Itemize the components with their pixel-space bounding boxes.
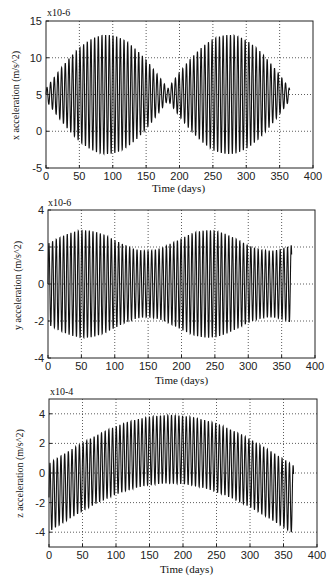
y-chart-ylabel: y acceleration (m/s^2) — [12, 221, 23, 351]
y-acceleration-line — [48, 230, 292, 337]
z-chart-ylabel: z acceleration (m/s^2) — [14, 409, 25, 539]
z-acceleration-chart: 050100150200250300350400-4-2024 — [35, 399, 326, 561]
y-tick-label: -5 — [32, 162, 42, 174]
x-tick-label: 150 — [139, 360, 157, 372]
x-tick-label: 300 — [237, 170, 255, 182]
x-tick-label: 200 — [172, 360, 190, 372]
figure-canvas: 050100150200250300350400-505101505010015… — [0, 0, 334, 585]
x-tick-label: 0 — [45, 360, 51, 372]
x-tick-label: 200 — [170, 170, 188, 182]
y-chart-xlabel: Time (days) — [155, 374, 208, 386]
y-tick-label: 2 — [39, 437, 45, 449]
x-tick-label: 0 — [43, 170, 49, 182]
x-acceleration-line — [46, 35, 290, 154]
y-tick-label: 0 — [38, 278, 44, 290]
y-tick-label: -4 — [35, 526, 45, 538]
y-tick-label: 10 — [30, 52, 42, 64]
y-tick-label: 2 — [38, 241, 44, 253]
y-tick-label: 4 — [38, 204, 44, 216]
z-chart-xlabel: Time (days) — [160, 563, 213, 575]
y-tick-label: 5 — [36, 89, 42, 101]
z-acceleration-line — [49, 415, 294, 532]
y-tick-label: -2 — [34, 315, 44, 327]
x-tick-label: 300 — [239, 360, 257, 372]
y-tick-label: 15 — [30, 15, 42, 27]
x-tick-label: 400 — [304, 170, 322, 182]
x-tick-label: 350 — [274, 549, 292, 561]
y-tick-label: 0 — [39, 467, 45, 479]
x-tick-label: 100 — [106, 360, 124, 372]
x-tick-label: 50 — [73, 170, 85, 182]
x-tick-label: 150 — [137, 170, 155, 182]
y-tick-label: -2 — [35, 497, 45, 509]
x-tick-label: 50 — [76, 549, 88, 561]
x-tick-label: 250 — [206, 360, 224, 372]
x-tick-label: 150 — [140, 549, 158, 561]
y-tick-label: 4 — [39, 408, 45, 420]
x-tick-label: 350 — [270, 170, 288, 182]
x-tick-label: 250 — [207, 549, 225, 561]
x-tick-label: 400 — [308, 549, 326, 561]
x-acceleration-chart: 050100150200250300350400-5051015 — [30, 15, 322, 182]
x-chart-exponent-label: x10-6 — [47, 7, 70, 18]
x-tick-label: 350 — [272, 360, 290, 372]
x-tick-label: 400 — [306, 360, 324, 372]
chart-panel-x: 050100150200250300350400-505101505010015… — [0, 0, 334, 585]
x-tick-label: 200 — [174, 549, 192, 561]
x-tick-label: 300 — [241, 549, 259, 561]
y-tick-label: 0 — [36, 125, 42, 137]
z-chart-exponent-label: x10-4 — [50, 386, 73, 397]
y-acceleration-chart: 050100150200250300350400-4-2024 — [34, 204, 324, 372]
x-tick-label: 250 — [204, 170, 222, 182]
x-tick-label: 100 — [107, 549, 125, 561]
x-tick-label: 100 — [104, 170, 122, 182]
y-tick-label: -4 — [34, 352, 44, 364]
x-tick-label: 50 — [75, 360, 87, 372]
y-chart-exponent-label: x10-6 — [48, 197, 71, 208]
x-tick-label: 0 — [46, 549, 52, 561]
x-chart-ylabel: x acceleration (m/s^2) — [10, 31, 21, 161]
x-chart-xlabel: Time (days) — [152, 182, 205, 194]
